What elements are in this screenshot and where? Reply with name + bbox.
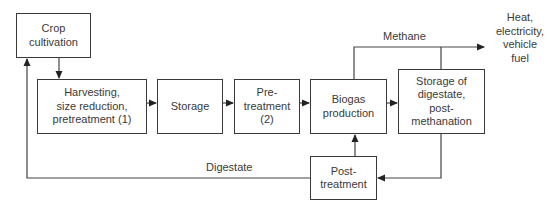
node-digestate-storage: Storage of digestate, post- methanation: [398, 69, 485, 134]
edge-label-methane: Methane: [383, 30, 426, 44]
edge-label-digestate: Digestate: [206, 161, 252, 175]
output-label: Heat, electricity, vehicle fuel: [490, 11, 550, 65]
node-crop-cultivation: Crop cultivation: [16, 13, 91, 58]
node-label: Crop cultivation: [29, 22, 78, 49]
node-label: Storage: [171, 100, 210, 114]
node-label: Storage of digestate, post- methanation: [411, 75, 472, 129]
node-post-treatment: Post- treatment: [310, 156, 377, 200]
node-label: Biogas production: [323, 93, 374, 120]
node-harvesting: Harvesting, size reduction, pretreatment…: [37, 79, 147, 134]
node-storage: Storage: [157, 79, 223, 134]
node-biogas-production: Biogas production: [310, 79, 387, 134]
node-label: Post- treatment: [320, 165, 366, 192]
node-pretreatment: Pre- treatment (2): [234, 79, 300, 134]
node-label: Pre- treatment (2): [244, 86, 290, 127]
node-label: Harvesting, size reduction, pretreatment…: [53, 86, 132, 127]
